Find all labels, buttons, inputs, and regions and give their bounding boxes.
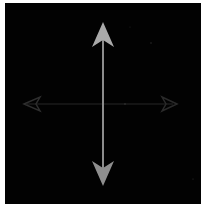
icon-canvas [5,3,201,204]
move-cursor-icon [5,3,201,204]
horizontal-arrow-icon [24,97,177,111]
